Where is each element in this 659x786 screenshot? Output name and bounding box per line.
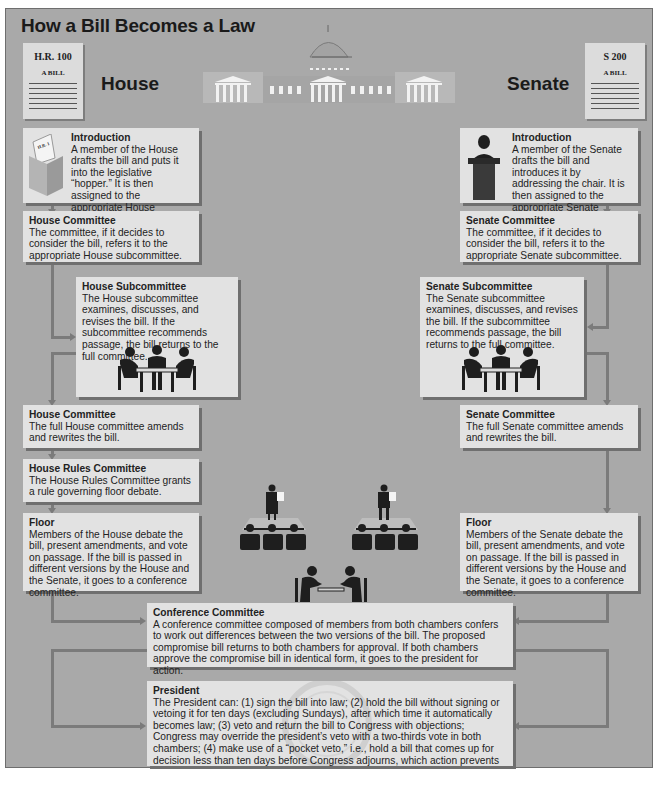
connector-line bbox=[606, 649, 609, 727]
connector-line bbox=[606, 352, 609, 402]
connector-line bbox=[51, 649, 147, 652]
house-rules-committee-box: House Rules Committee The House Rules Co… bbox=[23, 459, 199, 502]
senate-full-committee-box: Senate Committee The full Senate committ… bbox=[460, 405, 638, 448]
senate-bill-document: S 200 A BILL bbox=[585, 43, 645, 119]
document-lines-icon bbox=[591, 83, 639, 109]
senate-floor-heading: Floor bbox=[466, 517, 632, 529]
senate-introduction-box: Introduction A member of the Senate draf… bbox=[460, 128, 638, 203]
house-floor-box: Floor Members of the House debate the bi… bbox=[23, 513, 199, 591]
conference-committee-box: Conference Committee A conference commit… bbox=[147, 603, 513, 667]
document-lines-icon bbox=[29, 83, 77, 109]
connector-line bbox=[518, 620, 609, 623]
capitol-building-icon bbox=[200, 20, 460, 110]
arrow-left-icon bbox=[513, 617, 519, 625]
senate-bill-subtitle: A BILL bbox=[585, 69, 645, 77]
senate-full-committee-heading: Senate Committee bbox=[466, 409, 632, 421]
senate-committee-text: The committee, if it decides to consider… bbox=[466, 227, 622, 261]
hopper-box-icon: H.R. 1 bbox=[27, 134, 65, 196]
house-bill-document: H.R. 100 A BILL bbox=[23, 43, 83, 119]
house-floor-heading: Floor bbox=[29, 517, 193, 529]
president-text: The President can: (1) sign the bill int… bbox=[153, 697, 500, 766]
conference-committee-text: A conference committee composed of membe… bbox=[153, 619, 498, 676]
meeting-table-icon bbox=[458, 344, 544, 394]
senate-committee-heading: Senate Committee bbox=[466, 215, 632, 227]
connector-line bbox=[606, 262, 609, 328]
house-committee-box: House Committee The committee, if it dec… bbox=[23, 211, 199, 262]
connector-line bbox=[606, 448, 609, 510]
connector-line bbox=[51, 352, 54, 402]
house-full-committee-text: The full House committee amends and rewr… bbox=[29, 421, 184, 444]
house-introduction-box: H.R. 1 Introduction A member of the Hous… bbox=[23, 128, 199, 203]
senate-floor-speaker-icon bbox=[350, 484, 422, 552]
house-floor-text: Members of the House debate the bill, pr… bbox=[29, 529, 189, 598]
conference-committee-heading: Conference Committee bbox=[153, 607, 507, 619]
senate-committee-box: Senate Committee The committee, if it de… bbox=[460, 211, 638, 262]
senate-label: Senate bbox=[507, 73, 569, 95]
house-rules-committee-text: The House Rules Committee grants a rule … bbox=[29, 475, 191, 498]
house-subcommittee-heading: House Subcommittee bbox=[82, 281, 232, 293]
house-rules-committee-heading: House Rules Committee bbox=[29, 463, 193, 475]
arrow-right-icon bbox=[140, 617, 146, 625]
senate-full-committee-text: The full Senate committee amends and rew… bbox=[466, 421, 623, 444]
arrow-left-icon bbox=[587, 323, 593, 331]
connector-line bbox=[518, 725, 609, 728]
arrow-left-icon bbox=[513, 722, 519, 730]
connector-line bbox=[592, 326, 609, 329]
senate-subcommittee-heading: Senate Subcommittee bbox=[426, 281, 578, 293]
house-committee-text: The committee, if it decides to consider… bbox=[29, 227, 182, 261]
connector-line bbox=[51, 725, 141, 728]
senate-subcommittee-text: The Senate subcommittee examines, discus… bbox=[426, 293, 578, 350]
connector-line bbox=[51, 336, 71, 339]
senate-introduction-heading: Introduction bbox=[512, 132, 632, 144]
conference-negotiation-icon bbox=[288, 566, 374, 602]
senate-floor-text: Members of the Senate debate the bill, p… bbox=[466, 529, 626, 598]
house-label: House bbox=[101, 73, 159, 95]
house-introduction-heading: Introduction bbox=[71, 132, 193, 144]
senate-floor-box: Floor Members of the Senate debate the b… bbox=[460, 513, 638, 591]
connector-line bbox=[51, 649, 54, 727]
president-heading: President bbox=[153, 685, 507, 697]
house-bill-number: H.R. 100 bbox=[23, 51, 83, 62]
podium-speaker-icon bbox=[464, 132, 504, 200]
meeting-table-icon bbox=[114, 344, 200, 394]
house-subcommittee-box: House Subcommittee The House subcommitte… bbox=[76, 277, 238, 397]
house-committee-heading: House Committee bbox=[29, 215, 193, 227]
connector-line bbox=[512, 649, 609, 652]
house-full-committee-box: House Committee The full House committee… bbox=[23, 405, 199, 448]
house-floor-speaker-icon bbox=[238, 484, 310, 552]
senate-subcommittee-box: Senate Subcommittee The Senate subcommit… bbox=[420, 277, 584, 397]
connector-line bbox=[51, 262, 54, 338]
house-full-committee-heading: House Committee bbox=[29, 409, 193, 421]
arrow-right-icon bbox=[140, 722, 146, 730]
connector-line bbox=[51, 352, 77, 355]
connector-line bbox=[51, 620, 141, 623]
senate-bill-number: S 200 bbox=[585, 51, 645, 62]
house-bill-subtitle: A BILL bbox=[23, 69, 83, 77]
president-box: President The President can: (1) sign th… bbox=[147, 681, 513, 766]
